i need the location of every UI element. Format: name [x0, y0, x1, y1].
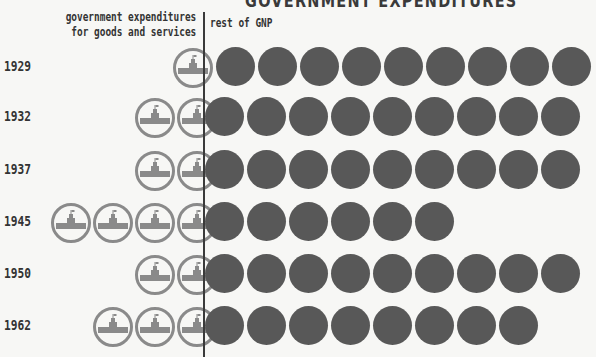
gnp-circle-icon	[541, 97, 580, 136]
chart-row-1962: 1962	[0, 307, 596, 347]
year-label: 1929	[4, 58, 31, 74]
gnp-circle-icon	[331, 306, 370, 345]
year-label: 1937	[4, 161, 31, 177]
gnp-circle-icon	[247, 97, 286, 136]
gnp-circle-icon	[247, 150, 286, 189]
gnp-circle-icon	[205, 306, 244, 345]
gnp-circle-icon	[247, 254, 286, 293]
capitol-icon	[93, 307, 133, 347]
chart-row-1929: 1929	[0, 48, 596, 88]
capitol-icon	[135, 151, 175, 191]
gnp-circle-icon	[415, 254, 454, 293]
gnp-circle-icon	[457, 306, 496, 345]
gnp-circle-icon	[499, 306, 538, 345]
legend-government: government expenditures for goods and se…	[65, 10, 196, 40]
gnp-circle-icon	[373, 150, 412, 189]
gnp-circle-icon	[541, 254, 580, 293]
gnp-circle-icon	[426, 47, 465, 86]
gnp-circle-icon	[205, 97, 244, 136]
gnp-circle-icon	[373, 202, 412, 241]
gnp-circle-icon	[499, 150, 538, 189]
gnp-circle-icon	[331, 150, 370, 189]
gnp-circle-icon	[457, 254, 496, 293]
gnp-circle-icon	[331, 202, 370, 241]
gnp-circle-icon	[552, 47, 591, 86]
legend-rest-of-gnp: rest of GNP	[210, 16, 272, 30]
capitol-icon	[135, 307, 175, 347]
gnp-circle-icon	[216, 47, 255, 86]
gnp-circle-icon	[300, 47, 339, 86]
gnp-circle-icon	[468, 47, 507, 86]
capitol-icon	[135, 203, 175, 243]
gnp-circle-icon	[457, 97, 496, 136]
divider-line	[203, 12, 205, 357]
gnp-circle-icon	[205, 202, 244, 241]
gnp-circle-icon	[384, 47, 423, 86]
gnp-circle-icon	[247, 306, 286, 345]
gnp-circle-icon	[541, 150, 580, 189]
legend-government-line2: for goods and services	[65, 25, 196, 40]
year-label: 1962	[4, 317, 31, 333]
year-label: 1950	[4, 265, 31, 281]
gnp-circle-icon	[258, 47, 297, 86]
gnp-circle-icon	[289, 254, 328, 293]
year-label: 1945	[4, 213, 31, 229]
chart-row-1932: 1932	[0, 98, 596, 138]
gnp-circle-icon	[331, 254, 370, 293]
gnp-circle-icon	[289, 150, 328, 189]
chart-row-1937: 1937	[0, 151, 596, 191]
gnp-circle-icon	[415, 306, 454, 345]
gnp-circle-icon	[373, 97, 412, 136]
gnp-circle-icon	[373, 306, 412, 345]
gnp-circle-icon	[205, 254, 244, 293]
gnp-circle-icon	[289, 306, 328, 345]
gnp-circle-icon	[499, 97, 538, 136]
chart-row-1945: 1945	[0, 203, 596, 243]
gnp-circle-icon	[415, 150, 454, 189]
gnp-circle-icon	[289, 202, 328, 241]
legend-government-line1: government expenditures	[65, 10, 196, 25]
capitol-icon	[135, 255, 175, 295]
gnp-circle-icon	[247, 202, 286, 241]
gnp-circle-icon	[457, 150, 496, 189]
gnp-circle-icon	[205, 150, 244, 189]
year-label: 1932	[4, 108, 31, 124]
gnp-circle-icon	[342, 47, 381, 86]
capitol-icon	[51, 203, 91, 243]
gnp-circle-icon	[499, 254, 538, 293]
chart-row-1950: 1950	[0, 255, 596, 295]
gnp-circle-icon	[415, 97, 454, 136]
capitol-icon	[93, 203, 133, 243]
gnp-circle-icon	[415, 202, 454, 241]
gnp-circle-icon	[510, 47, 549, 86]
gnp-circle-icon	[331, 97, 370, 136]
capitol-icon	[135, 98, 175, 138]
gnp-circle-icon	[373, 254, 412, 293]
gnp-circle-icon	[289, 97, 328, 136]
chart-title: GOVERNMENT EXPENDITURES	[245, 0, 518, 11]
capitol-icon	[173, 48, 213, 88]
